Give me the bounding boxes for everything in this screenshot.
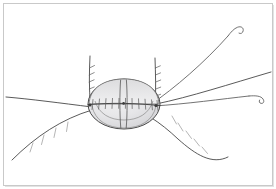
figure-frame [0, 0, 276, 189]
right-convergence-node [154, 104, 157, 107]
mid-suture-knot [122, 102, 125, 105]
surgical-illustration [0, 0, 276, 189]
left-convergence-node [88, 103, 91, 106]
